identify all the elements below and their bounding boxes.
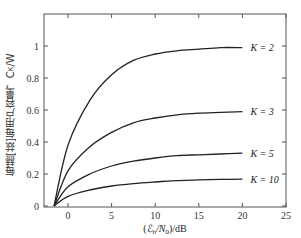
x-tick-label: 15	[194, 210, 204, 221]
curve-k10	[54, 179, 242, 206]
y-tick-label: 0.2	[27, 169, 40, 180]
x-tick-label: 25	[281, 210, 291, 221]
curve-label: K = 3	[249, 106, 273, 117]
y-axis-title: 每赫[兹]每用户容量，CK/W	[3, 30, 17, 200]
tick-labels: 051015202500.20.40.60.81	[27, 41, 292, 222]
y-tick-label: 0.4	[27, 137, 40, 148]
y-tick-label: 0.6	[27, 105, 40, 116]
curve-label: K = 2	[249, 42, 273, 53]
x-tick-label: 20	[237, 210, 247, 221]
y-tick-label: 1	[34, 41, 39, 52]
curve-label: K = 10	[249, 174, 278, 185]
y-tick-label: 0	[34, 201, 39, 212]
curve-labels: K = 2K = 3K = 5K = 10	[249, 42, 278, 185]
curves	[54, 47, 242, 206]
x-tick-label: 0	[66, 210, 71, 221]
x-tick-label: 5	[109, 210, 114, 221]
x-tick-label: 10	[150, 210, 160, 221]
x-axis-title: (ℰb/N0)/dB	[143, 223, 187, 236]
curve-label: K = 5	[249, 148, 273, 159]
capacity-chart: 051015202500.20.40.60.81 K = 2K = 3K = 5…	[0, 0, 301, 238]
y-tick-label: 0.8	[27, 73, 40, 84]
